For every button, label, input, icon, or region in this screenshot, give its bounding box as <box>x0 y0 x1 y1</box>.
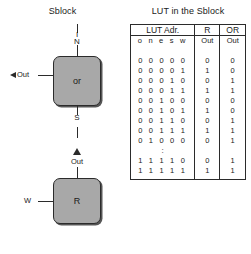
or-block-label: or <box>54 76 100 86</box>
lut-cell-address: 1 1 1 1 0 <box>131 156 195 166</box>
or-output-left-arrow-icon <box>10 72 16 78</box>
or-output-left-label: Out <box>17 70 29 79</box>
lut-header-row: LUT Adr. R OR <box>131 25 245 36</box>
r-output-wire <box>77 167 78 178</box>
lut-ellipsis-or <box>220 146 245 156</box>
table-row: 0 0 0 1 0 0 1 <box>131 76 245 86</box>
lut-spacer-r <box>195 46 220 56</box>
w-input-wire <box>38 201 54 202</box>
lut-cell-address: 0 0 0 1 1 <box>131 86 195 96</box>
lut-table: LUT Adr. R OR o n e s w Out Out 0 0 0 0 … <box>130 24 246 180</box>
lut-cell-r: 0 <box>195 56 220 66</box>
table-row: 0 0 0 0 1 1 0 <box>131 66 245 76</box>
lut-subheader-row: o n e s w Out Out <box>131 36 245 47</box>
sblock-diagram-panel: Sblock I N or Out S Out R W <box>0 0 125 254</box>
r-block-label: R <box>54 196 100 206</box>
lut-cell-or: 0 <box>220 106 245 116</box>
lut-cell-or: 0 <box>220 96 245 106</box>
w-input-label: W <box>24 196 31 205</box>
lut-cell-address: 0 0 1 0 0 <box>131 96 195 106</box>
in-wire-lower-segment <box>77 45 78 56</box>
lut-cell-r: 1 <box>195 106 220 116</box>
lut-cell-r: 0 <box>195 96 220 106</box>
lut-cell-address: 0 0 1 1 1 <box>131 126 195 136</box>
s-wire-lower-segment <box>77 127 78 138</box>
lut-cell-or: 1 <box>220 156 245 166</box>
lut-cell-r: 0 <box>195 136 220 146</box>
lut-cell-r: 1 <box>195 166 220 179</box>
lut-subheader-or-out: Out <box>220 36 245 47</box>
lut-ellipsis-marker: : <box>131 146 195 156</box>
r-block: R <box>53 178 101 224</box>
lut-subheader-address-bits: o n e s w <box>131 36 195 47</box>
lut-cell-r: 1 <box>195 66 220 76</box>
lut-cell-or: 1 <box>220 166 245 179</box>
lut-cell-address: 0 0 0 0 1 <box>131 66 195 76</box>
table-row: 0 0 0 1 1 1 1 <box>131 86 245 96</box>
table-row: 0 0 0 0 0 0 0 <box>131 56 245 66</box>
lut-header-or: OR <box>220 25 245 36</box>
lut-cell-r: 0 <box>195 116 220 126</box>
lut-cell-or: 1 <box>220 116 245 126</box>
lut-cell-address: 0 1 0 0 0 <box>131 136 195 146</box>
or-block: or <box>53 56 101 106</box>
lut-cell-or: 1 <box>220 86 245 96</box>
lut-cell-or: 0 <box>220 56 245 66</box>
or-output-left-wire <box>38 75 54 76</box>
lut-spacer-address <box>131 46 195 56</box>
lut-spacer-row <box>131 46 245 56</box>
lut-cell-r: 1 <box>195 86 220 96</box>
figure-root: Sblock I N or Out S Out R W LUT in the S… <box>0 0 251 254</box>
lut-cell-or: 1 <box>220 76 245 86</box>
lut-cell-address: 0 0 1 0 1 <box>131 106 195 116</box>
lut-ellipsis-row: : <box>131 146 245 156</box>
lut-cell-address: 0 0 0 0 0 <box>131 56 195 66</box>
lut-cell-r: 0 <box>195 76 220 86</box>
table-row: 0 0 1 0 0 0 0 <box>131 96 245 106</box>
lut-cell-r: 0 <box>195 156 220 166</box>
lut-cell-address: 0 0 1 1 0 <box>131 116 195 126</box>
table-row: 0 1 0 0 0 0 1 <box>131 136 245 146</box>
lut-header-address: LUT Adr. <box>131 25 195 36</box>
lut-cell-r: 1 <box>195 126 220 136</box>
lut-spacer-or <box>220 46 245 56</box>
sblock-title: Sblock <box>0 6 125 16</box>
r-output-label: Out <box>62 157 92 166</box>
lut-cell-or: 0 <box>220 66 245 76</box>
table-row: 0 0 1 0 1 1 0 <box>131 106 245 116</box>
lut-cell-address: 0 0 0 1 0 <box>131 76 195 86</box>
lut-subheader-r-out: Out <box>195 36 220 47</box>
lut-cell-address: 1 1 1 1 1 <box>131 166 195 179</box>
r-output-up-arrow-icon <box>73 148 81 155</box>
table-row: 0 0 1 1 1 1 1 <box>131 126 245 136</box>
lut-ellipsis-r <box>195 146 220 156</box>
lut-header-r: R <box>195 25 220 36</box>
lut-cell-or: 1 <box>220 136 245 146</box>
s-label: S <box>62 113 92 122</box>
lut-title: LUT in the Sblock <box>125 6 251 16</box>
lut-cell-or: 1 <box>220 126 245 136</box>
table-row: 0 0 1 1 0 0 1 <box>131 116 245 126</box>
table-row: 1 1 1 1 0 0 1 <box>131 156 245 166</box>
table-row: 1 1 1 1 1 1 1 <box>131 166 245 179</box>
lut-table-panel: LUT in the Sblock LUT Adr. R OR o n e s … <box>125 0 251 254</box>
